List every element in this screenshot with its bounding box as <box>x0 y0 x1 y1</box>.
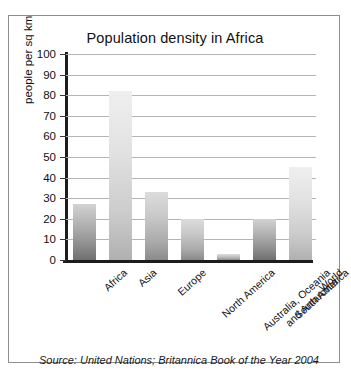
y-axis-tick <box>60 136 66 137</box>
y-axis-tick <box>60 198 66 199</box>
gridline <box>65 157 316 158</box>
y-axis-tick <box>60 157 66 158</box>
y-axis-tick <box>60 219 66 220</box>
y-axis-tick-label: 80 <box>43 89 56 101</box>
x-axis-line <box>63 260 313 263</box>
y-axis-tick <box>60 239 66 240</box>
y-axis-tick-label: 100 <box>37 48 56 60</box>
y-axis-tick-label: 60 <box>43 130 56 142</box>
y-axis-tick <box>60 116 66 117</box>
y-axis-tick <box>60 260 66 261</box>
bar <box>109 91 132 260</box>
y-axis-title: people per sq km <box>22 16 34 104</box>
gridline <box>65 198 316 199</box>
gridline <box>65 75 316 76</box>
bar <box>181 219 204 260</box>
gridline <box>65 178 316 179</box>
y-axis-tick <box>60 54 66 55</box>
y-axis-tick <box>60 178 66 179</box>
y-axis-tick-label: 20 <box>43 213 56 225</box>
bar <box>289 167 312 260</box>
gridline <box>65 95 316 96</box>
chart-panel: Population density in Africa people per … <box>8 15 340 363</box>
plot-area: 0102030405060708090100 AfricaAsiaEuropeN… <box>65 54 316 260</box>
bar <box>217 254 240 260</box>
y-axis-tick-label: 90 <box>43 69 56 81</box>
y-axis-tick-label: 10 <box>43 233 56 245</box>
x-axis-label: Asia <box>136 267 159 289</box>
source-note: Source: United Nations; Britannica Book … <box>39 354 319 366</box>
x-axis-label: Europe <box>176 267 209 298</box>
bar <box>73 204 96 260</box>
y-axis-tick-label: 70 <box>43 110 56 122</box>
bar <box>253 219 276 260</box>
y-axis-tick-label: 50 <box>43 151 56 163</box>
x-axis-label: North America <box>220 267 277 320</box>
chart-title: Population density in Africa <box>9 30 341 46</box>
y-axis-tick <box>60 95 66 96</box>
bar <box>145 192 168 260</box>
y-axis-tick-label: 40 <box>43 172 56 184</box>
y-axis-tick-label: 0 <box>50 254 56 266</box>
gridline <box>65 116 316 117</box>
y-axis-tick <box>60 75 66 76</box>
y-axis-tick-label: 30 <box>43 192 56 204</box>
gridline <box>65 136 316 137</box>
x-axis-label: Africa <box>102 267 130 294</box>
gridline <box>65 54 316 55</box>
